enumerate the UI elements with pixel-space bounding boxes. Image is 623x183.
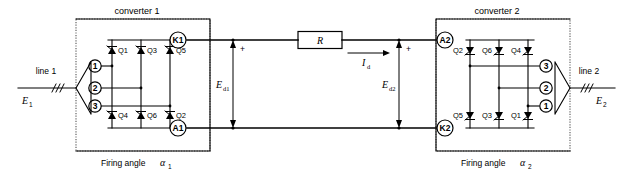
converter-1-firing-angle: Firing angle α 1 xyxy=(101,157,172,170)
thyristor-q2-conv2-label: Q2 xyxy=(453,46,463,55)
svg-text:α: α xyxy=(520,157,526,168)
svg-text:E: E xyxy=(21,95,28,106)
converter-1-dc-terminal-a1: A1 xyxy=(170,120,186,136)
thyristor-q6-label: Q6 xyxy=(147,111,157,120)
svg-text:3: 3 xyxy=(544,61,549,71)
thyristor-q4: Q4 xyxy=(107,111,128,120)
svg-text:Firing angle: Firing angle xyxy=(461,158,506,168)
dc-link-resistor-label: R xyxy=(316,35,323,46)
thyristor-q5-conv2: Q5 xyxy=(453,111,475,120)
line-2-label: line 2 xyxy=(579,66,600,76)
schematic-diagram: converter 1 Q1 Q3 Q5 xyxy=(0,0,623,183)
line-1-label: line 1 xyxy=(36,66,57,76)
thyristor-q6: Q6 xyxy=(136,111,157,120)
line-2-splitter xyxy=(555,62,570,114)
thyristor-q6-conv2: Q6 xyxy=(482,46,504,55)
svg-text:d1: d1 xyxy=(223,85,230,92)
converter-2-dc-terminal-k2: K2 xyxy=(437,120,453,136)
converter-2-dc-terminal-a2: A2 xyxy=(437,32,453,48)
svg-text:1: 1 xyxy=(168,163,172,170)
thyristor-q1-conv2: Q1 xyxy=(511,111,533,120)
thyristor-q5-conv2-label: Q5 xyxy=(453,111,463,120)
converter-1-group: converter 1 Q1 Q3 Q5 xyxy=(76,6,210,170)
svg-text:E: E xyxy=(215,79,222,90)
dc-polarity-right: + xyxy=(406,44,411,54)
converter-1-caption: converter 1 xyxy=(114,6,159,16)
thyristor-q1-label: Q1 xyxy=(118,46,128,55)
svg-text:I: I xyxy=(361,57,366,68)
svg-text:2: 2 xyxy=(93,83,98,93)
line-2-group: line 2 E 2 xyxy=(555,62,615,114)
dc-voltage-ed1: + E d1 xyxy=(215,38,245,129)
thyristor-q2-conv2: Q2 xyxy=(453,46,475,55)
line-1-voltage-label: E 1 xyxy=(21,95,33,108)
converter-2-caption: converter 2 xyxy=(474,6,519,16)
svg-text:1: 1 xyxy=(29,101,33,108)
line-1-group: line 1 E 1 xyxy=(18,62,91,114)
thyristor-q3-conv2: Q3 xyxy=(482,111,504,120)
thyristor-q1-conv2-label: Q1 xyxy=(511,111,521,120)
converter-2-group: converter 2 Q2 Q6 Q4 xyxy=(436,6,570,170)
thyristor-q2: Q2 xyxy=(165,111,186,120)
svg-text:d2: d2 xyxy=(389,85,396,92)
line-1-phase-marks xyxy=(52,84,64,92)
dc-link-current-label: I d xyxy=(361,57,371,70)
converter-2-terminal-2: 2 xyxy=(540,82,552,94)
dc-link-current-arrow xyxy=(348,50,390,56)
svg-text:1: 1 xyxy=(93,61,98,71)
thyristor-q1: Q1 xyxy=(107,46,128,55)
svg-text:3: 3 xyxy=(93,101,98,111)
svg-text:A1: A1 xyxy=(173,123,184,133)
svg-text:E: E xyxy=(595,95,602,106)
thyristor-q4-conv2-label: Q4 xyxy=(511,46,521,55)
svg-text:2: 2 xyxy=(544,83,549,93)
converter-1-dc-terminal-k1: K1 xyxy=(170,32,186,48)
converter-2-firing-angle: Firing angle α 2 xyxy=(461,157,532,170)
svg-text:K2: K2 xyxy=(440,123,451,133)
svg-text:Firing angle: Firing angle xyxy=(101,158,146,168)
svg-text:K1: K1 xyxy=(173,35,184,45)
thyristor-q3-label: Q3 xyxy=(147,46,157,55)
thyristor-q2-label: Q2 xyxy=(176,111,186,120)
line-2-voltage-label: E 2 xyxy=(595,95,607,108)
thyristor-q6-conv2-label: Q6 xyxy=(482,46,492,55)
thyristor-q3-conv2-label: Q3 xyxy=(482,111,492,120)
svg-text:E: E xyxy=(381,79,388,90)
thyristor-q3: Q3 xyxy=(136,46,157,55)
svg-text:A2: A2 xyxy=(440,35,451,45)
svg-text:α: α xyxy=(160,157,166,168)
dc-link-group: R I d + E d1 xyxy=(187,32,436,130)
dc-polarity-left: + xyxy=(240,44,245,54)
thyristor-q4-conv2: Q4 xyxy=(511,46,533,55)
converter-2-terminal-3: 3 xyxy=(540,60,552,72)
svg-text:2: 2 xyxy=(528,163,532,170)
svg-text:1: 1 xyxy=(544,101,549,111)
thyristor-q4-label: Q4 xyxy=(118,111,128,120)
svg-text:d: d xyxy=(367,63,371,70)
line-2-phase-marks xyxy=(581,84,593,92)
svg-text:2: 2 xyxy=(603,101,607,108)
converter-2-terminal-1: 1 xyxy=(540,100,552,112)
